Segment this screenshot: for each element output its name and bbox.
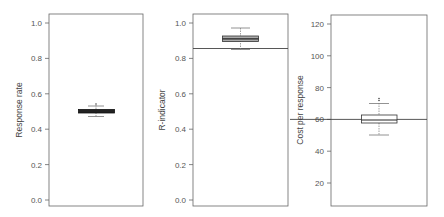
y-tick-label: 0.0	[31, 196, 43, 205]
y-tick-label: 0.4	[175, 125, 187, 134]
y-tick-label: 0.6	[31, 90, 43, 99]
y-tick-label: 20	[315, 179, 324, 188]
y-axis-title: Response rate	[14, 82, 24, 138]
boxplot	[223, 28, 259, 50]
panel-response-rate: 0.0 0.2 0.4 0.6 0.8 1.0 Response rate	[14, 14, 143, 206]
boxplot	[79, 103, 115, 116]
boxplot	[362, 98, 398, 135]
outlier-point	[95, 103, 97, 105]
y-axis-title: R-indicator	[157, 89, 167, 130]
y-tick-label: 80	[315, 84, 324, 93]
y-tick-label: 60	[315, 115, 324, 124]
y-tick-label: 40	[315, 147, 324, 156]
y-axis-title: Cost per response	[295, 75, 305, 145]
figure: 0.0 0.2 0.4 0.6 0.8 1.0 Response rate 0.…	[0, 0, 444, 217]
y-tick-label: 0.4	[31, 125, 43, 134]
y-tick-label: 0.2	[175, 161, 187, 170]
y-axis	[45, 23, 49, 200]
y-tick-label: 100	[311, 52, 325, 61]
box	[79, 110, 115, 114]
y-tick-label: 1.0	[31, 19, 43, 28]
y-tick-label: 0.6	[175, 90, 187, 99]
outlier-point	[378, 100, 380, 102]
y-tick-label: 120	[311, 20, 325, 29]
y-axis	[327, 24, 331, 183]
y-tick-label: 0.8	[175, 54, 187, 63]
y-tick-label: 0.0	[175, 196, 187, 205]
panel-cost-per-response: 20 40 60 80 100 120 Cost per response	[290, 15, 427, 206]
plot-frame	[193, 14, 288, 206]
y-axis	[189, 23, 193, 200]
box	[362, 115, 398, 123]
y-tick-label: 0.2	[31, 161, 43, 170]
y-tick-label: 1.0	[175, 19, 187, 28]
panel-r-indicator: 0.0 0.2 0.4 0.6 0.8 1.0 R-indicator	[157, 14, 288, 206]
y-tick-label: 0.8	[31, 54, 43, 63]
outlier-point	[378, 98, 380, 100]
